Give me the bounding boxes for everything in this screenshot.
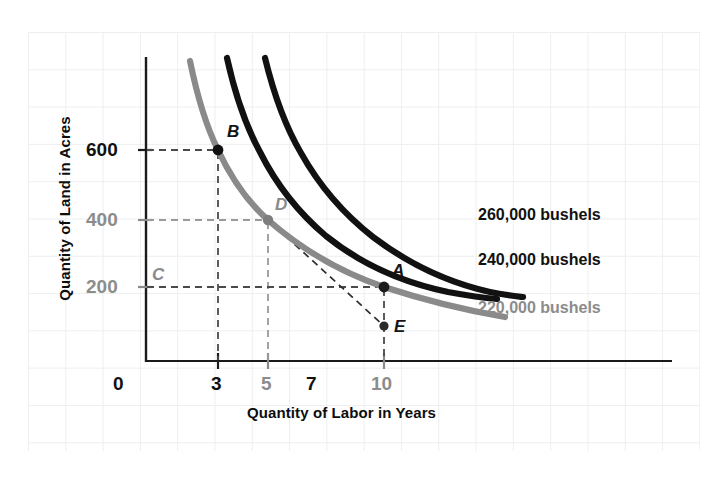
x-tick-label-0: 0 [113, 373, 124, 395]
y-tick-label-200: 200 [86, 276, 118, 298]
curve-label-220000: 220,000 bushels [478, 299, 601, 317]
point-label-b: B [227, 122, 239, 142]
x-tick-label-3: 3 [211, 373, 222, 395]
y-tick-label-400: 400 [86, 209, 118, 231]
data-point-dots [213, 145, 390, 331]
y-axis-title: Quantity of Land in Acres [56, 99, 73, 319]
curve-label-240000: 240,000 bushels [478, 251, 601, 269]
point-dot-b [213, 145, 224, 156]
point-dot-e [379, 321, 388, 330]
tick-marks [138, 150, 384, 369]
point-dot-a [379, 282, 390, 293]
point-label-e: E [394, 317, 405, 337]
chart-canvas: Quantity of Labor in Years Quantity of L… [0, 0, 727, 480]
curve-label-260000: 260,000 bushels [478, 206, 601, 224]
point-dot-d [263, 215, 273, 225]
x-tick-label-5: 5 [261, 373, 272, 395]
x-tick-label-10: 10 [371, 373, 392, 395]
point-label-c: C [152, 265, 164, 285]
isoquant-curves [190, 58, 523, 317]
point-label-d: D [275, 195, 287, 215]
y-tick-label-600: 600 [86, 139, 118, 161]
x-tick-label-7: 7 [306, 373, 317, 395]
point-label-a: A [392, 261, 404, 281]
x-axis-title: Quantity of Labor in Years [247, 404, 436, 421]
